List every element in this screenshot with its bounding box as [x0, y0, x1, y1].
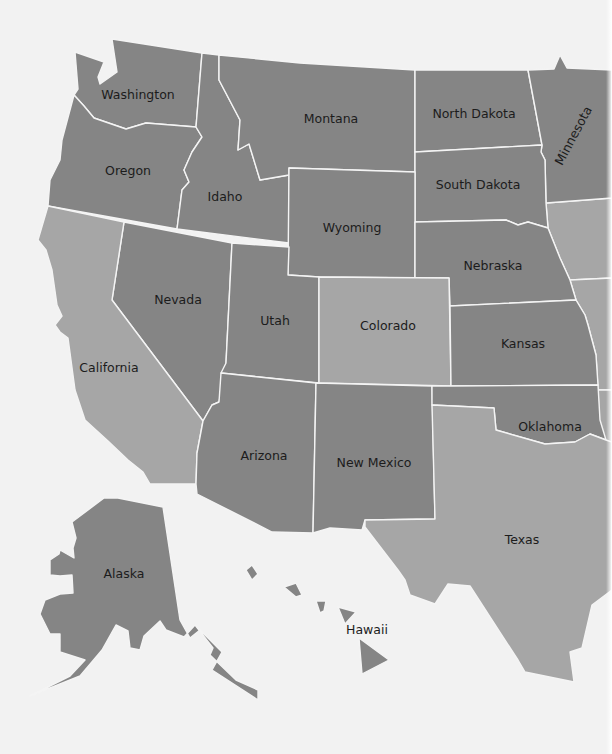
label-texas: Texas: [504, 532, 540, 547]
label-idaho: Idaho: [208, 189, 243, 204]
label-hawaii: Hawaii: [346, 622, 388, 637]
state-hawaii-niihau[interactable]: [246, 565, 258, 580]
label-arizona: Arizona: [241, 448, 288, 463]
label-montana: Montana: [304, 111, 359, 126]
label-california: California: [79, 360, 138, 375]
label-utah: Utah: [260, 313, 290, 328]
label-washington: Washington: [101, 87, 174, 102]
label-oklahoma: Oklahoma: [518, 419, 582, 434]
label-south-dakota: South Dakota: [436, 177, 521, 192]
label-kansas: Kansas: [501, 336, 545, 351]
state-hawaii-big-island[interactable]: [359, 638, 389, 674]
state-washington[interactable]: [74, 39, 202, 129]
label-nebraska: Nebraska: [464, 258, 523, 273]
page-edge: [606, 0, 612, 754]
state-hawaii-kauai[interactable]: [284, 583, 302, 597]
label-new-mexico: New Mexico: [337, 455, 412, 470]
label-nevada: Nevada: [154, 292, 202, 307]
label-colorado: Colorado: [360, 318, 416, 333]
label-alaska: Alaska: [104, 566, 145, 581]
label-oregon: Oregon: [105, 163, 151, 178]
map-canvas: Washington Oregon Idaho Montana North Da…: [0, 0, 612, 754]
state-alaska[interactable]: [30, 498, 258, 700]
label-wyoming: Wyoming: [323, 220, 382, 235]
us-west-map: Washington Oregon Idaho Montana North Da…: [0, 0, 612, 754]
state-hawaii-oahu[interactable]: [316, 601, 326, 613]
label-north-dakota: North Dakota: [432, 106, 515, 121]
